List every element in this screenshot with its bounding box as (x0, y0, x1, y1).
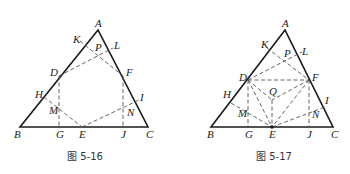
label-f: F (311, 71, 319, 83)
label-k: K (260, 38, 269, 50)
segment-dl (248, 52, 302, 80)
label-d: D (238, 71, 247, 83)
label-a: A (281, 17, 289, 29)
figure-5-17: A B C D E F G H I J K L M N P Q 图 5-17 (0, 0, 350, 174)
label-p: P (283, 47, 291, 59)
figure-caption: 图 5-17 (256, 148, 292, 163)
label-m: M (237, 107, 248, 119)
triangle-diagram-5-17: A B C D E F G H I J K L M N P Q (0, 0, 350, 174)
label-h: H (222, 88, 232, 100)
label-c: C (331, 128, 339, 140)
label-i: I (324, 94, 330, 106)
label-l: L (301, 45, 308, 57)
label-j: J (307, 128, 313, 140)
label-e: E (268, 128, 276, 140)
label-g: G (245, 128, 253, 140)
label-b: B (207, 128, 214, 140)
label-n: N (311, 108, 320, 120)
label-q: Q (269, 85, 277, 97)
segment-fq (272, 80, 309, 100)
